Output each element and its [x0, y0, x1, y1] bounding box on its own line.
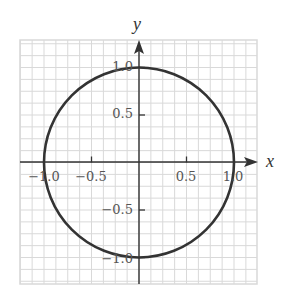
x-tick-label: 0.5 — [176, 169, 197, 184]
x-axis-label: x — [265, 151, 274, 171]
y-tick-label: 1.0 — [112, 59, 133, 74]
x-tick-label: 1.0 — [223, 169, 244, 184]
x-tick-label: −0.5 — [75, 169, 107, 184]
y-tick-label: −0.5 — [101, 202, 133, 217]
unit-circle-chart: −1.0 −0.5 0.5 1.0 1.0 0.5 −0.5 −1.0 x y — [0, 0, 288, 296]
x-tick-label: −1.0 — [28, 169, 60, 184]
y-tick-label: −1.0 — [101, 251, 133, 266]
y-axis-label: y — [131, 14, 141, 34]
y-tick-label: 0.5 — [112, 106, 133, 121]
